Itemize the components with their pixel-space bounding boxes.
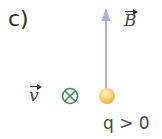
magnetic-field-label: B (124, 10, 137, 30)
into-page-velocity-icon (63, 89, 78, 104)
magnetic-field-arrow-icon (102, 8, 111, 90)
velocity-label: v (29, 85, 39, 105)
positive-charge-ball-icon (99, 88, 115, 104)
charge-condition-label: q > 0 (103, 113, 150, 133)
